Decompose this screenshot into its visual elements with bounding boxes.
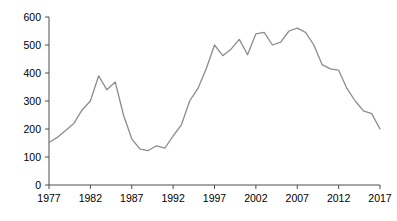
x-tick-label: 2012 [327, 192, 351, 204]
x-tick-label: 2007 [286, 192, 310, 204]
x-tick-label: 1997 [203, 192, 227, 204]
x-tick-label: 1977 [37, 192, 61, 204]
y-tick-label: 100 [23, 151, 41, 163]
y-tick-label: 300 [23, 95, 41, 107]
y-axis: 0100200300400500600 [23, 11, 49, 191]
y-tick-label: 400 [23, 67, 41, 79]
y-tick-label: 0 [35, 179, 41, 191]
x-axis-ticks: 197719821987199219972002200720122017 [37, 185, 392, 204]
x-tick-label: 1992 [161, 192, 185, 204]
x-axis: 197719821987199219972002200720122017 [37, 185, 392, 204]
x-tick-label: 1987 [120, 192, 144, 204]
chart-canvas: 0100200300400500600 19771982198719921997… [0, 0, 397, 221]
y-tick-label: 600 [23, 11, 41, 23]
y-axis-ticks: 0100200300400500600 [23, 11, 49, 191]
line-chart: 0100200300400500600 19771982198719921997… [0, 0, 397, 221]
y-tick-label: 200 [23, 123, 41, 135]
x-tick-label: 2017 [368, 192, 392, 204]
series-line-1 [49, 28, 380, 150]
x-tick-label: 1982 [79, 192, 103, 204]
x-tick-label: 2002 [244, 192, 268, 204]
plot-area [49, 28, 380, 150]
y-tick-label: 500 [23, 39, 41, 51]
